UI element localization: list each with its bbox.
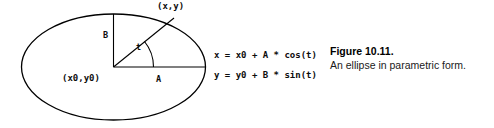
figure-caption: Figure 10.11. An ellipse in parametric f… [330,44,490,72]
figure-caption-text: An ellipse in parametric form. [330,58,490,72]
equation-y: y = y0 + B * sin(t) [214,65,326,85]
parametric-equations: x = x0 + A * cos(t) y = y0 + B * sin(t) [214,45,326,85]
semi-minor-axis-label: B [103,30,108,41]
figure-caption-title: Figure 10.11. [330,44,490,58]
point-xy-label: (x,y) [157,1,184,12]
radius-line [114,18,175,67]
figure-container: (x,y) (x0,y0) B A t x = x0 + A * cos(t) … [0,0,494,128]
semi-major-axis-label: A [156,74,161,85]
center-point-label: (x0,y0) [62,73,100,84]
angle-arc [145,42,154,68]
ellipse-diagram [0,0,247,128]
angle-t-label: t [136,42,141,53]
equation-x: x = x0 + A * cos(t) [214,45,326,65]
